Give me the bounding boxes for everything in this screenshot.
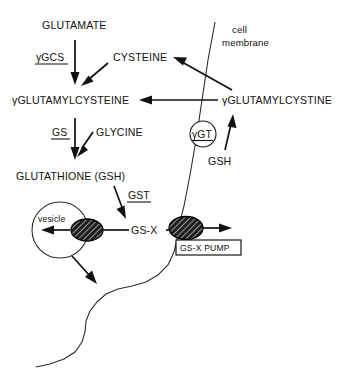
label-glutamate: GLUTAMATE — [42, 19, 107, 31]
arrow-cysteine-in — [88, 63, 108, 80]
arrowhead-cystine-to-cysteine — [139, 96, 152, 105]
arrowhead-gsh-up — [228, 114, 237, 128]
label-gst: GST — [128, 190, 150, 201]
label-gs-x: GS-X — [131, 224, 158, 236]
label-glycine: GLYCINE — [96, 126, 143, 138]
arrowhead-gsx-down — [117, 206, 127, 220]
label-cysteine: CYSTEINE — [113, 51, 167, 63]
cell-membrane-line — [36, 22, 215, 367]
arrow-glutathione-to-gsx — [114, 186, 123, 210]
arrowhead-glycine-in — [77, 145, 88, 157]
arrowhead-into-vesicle — [41, 226, 54, 235]
label-gsh-extracellular: GSH — [208, 155, 231, 167]
label-cell-membrane-line1: cell — [232, 24, 247, 35]
arrowhead-glutamate-down — [71, 72, 80, 85]
gs-x-pump-transporter — [169, 217, 203, 240]
label-glutathione: GLUTATHIONE (GSH) — [16, 170, 125, 182]
arrow-gsh-to-cystine — [225, 124, 231, 150]
label-gs: GS — [52, 127, 67, 138]
label-glutamylcystine: γGLUTAMYLCYSTINE — [222, 94, 332, 106]
pathway-diagram: GLUTAMATE γGCS CYSTEINE γGLUTAMYLCYSTEIN… — [0, 0, 344, 381]
diagram-canvas: GLUTAMATE γGCS CYSTEINE γGLUTAMYLCYSTEIN… — [0, 0, 344, 381]
label-vesicle: vesicle — [38, 214, 65, 224]
arrowhead-gsx-export — [219, 224, 232, 233]
vesicle-transporter — [71, 219, 103, 241]
arrow-vesicle-to-membrane — [72, 256, 90, 276]
arrow-glycine-in — [82, 132, 93, 148]
label-gamma-gt: γGT — [192, 129, 213, 140]
label-glutamylcysteine: γGLUTAMYLCYSTEINE — [12, 94, 129, 106]
label-gs-x-pump: GS-X PUMP — [180, 243, 230, 253]
label-cell-membrane-line2: membrane — [222, 37, 269, 48]
label-gamma-gcs: γGCS — [36, 52, 64, 63]
arrowhead-glutathione-down — [71, 147, 80, 160]
